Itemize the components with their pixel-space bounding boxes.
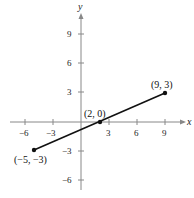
y-tick-label: 3 bbox=[67, 87, 72, 97]
y-tick-label: 6 bbox=[67, 58, 72, 68]
x-axis-arrow-icon bbox=[180, 120, 186, 125]
y-axis-label: y bbox=[77, 1, 83, 12]
x-tick-label: 9 bbox=[162, 128, 167, 138]
y-axis-arrow-icon bbox=[79, 13, 84, 19]
coordinate-plane: x y −6 −3 3 6 9 9 6 3 −3 −6 (−5, −3) (2,… bbox=[0, 0, 194, 198]
x-tick-label: −6 bbox=[19, 128, 29, 138]
point-marker bbox=[163, 91, 167, 95]
point-marker bbox=[98, 120, 102, 124]
point-label: (9, 3) bbox=[151, 79, 173, 91]
point-label: (−5, −3) bbox=[14, 154, 47, 166]
x-axis-label: x bbox=[186, 116, 192, 127]
y-tick-label: −6 bbox=[62, 175, 72, 185]
point-marker bbox=[32, 148, 36, 152]
point-label: (2, 0) bbox=[84, 108, 106, 120]
x-tick-label: 6 bbox=[134, 128, 139, 138]
x-tick-label: −3 bbox=[46, 128, 56, 138]
y-tick-label: 9 bbox=[67, 29, 72, 39]
y-tick-label: −3 bbox=[62, 146, 72, 156]
x-tick-label: 3 bbox=[106, 128, 111, 138]
